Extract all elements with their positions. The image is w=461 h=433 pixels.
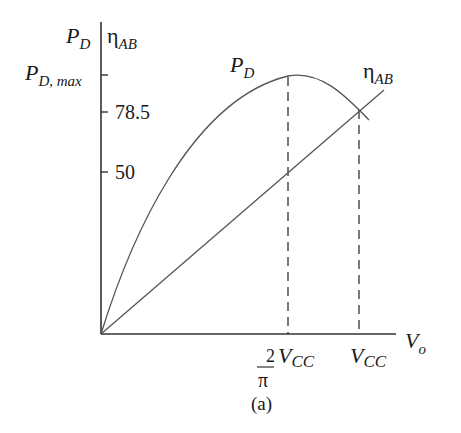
eta-ab-line [101,90,384,334]
tick-label-vcc: VCC [350,343,387,371]
tick-label-2pi-vcc: VCC [278,343,315,371]
tick-label-78-5: 78.5 [115,101,150,123]
y-label-pd: PD [65,23,90,52]
curve-label-pd: PD [229,52,254,81]
curve-label-eta: ηAB [363,58,393,87]
figure-caption: (a) [251,393,272,415]
frac-num: 2 [266,346,275,366]
tick-label-50: 50 [115,161,135,183]
y-label-eta: ηAB [107,23,137,52]
frac-den: π [258,369,268,391]
tick-label-pdmax: PD, max [24,60,82,89]
x-label-vo: Vo [405,328,426,357]
diagram-canvas: PD ηAB PD, max 78.5 50 PD ηAB Vo 2 π VCC… [0,0,461,433]
